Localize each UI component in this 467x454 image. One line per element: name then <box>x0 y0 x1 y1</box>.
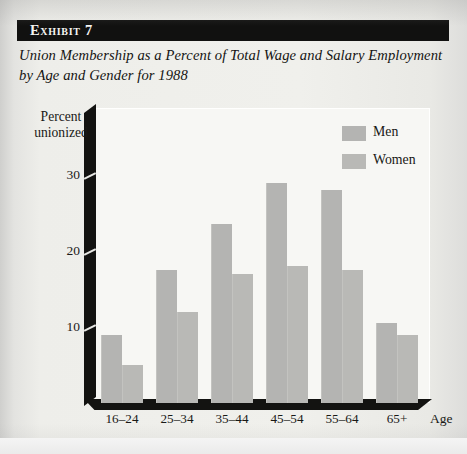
bar-men-35-44 <box>211 224 232 403</box>
x-tick-label-16-24: 16–24 <box>93 411 151 427</box>
bar-women-16-24 <box>122 365 143 403</box>
legend-item-women: Women <box>342 152 442 180</box>
bar-women-65+ <box>397 335 418 403</box>
bar-men-25-34 <box>156 270 177 403</box>
legend-label-men: Men <box>373 124 398 140</box>
x-tick-label-45-54: 45–54 <box>258 411 316 427</box>
bar-women-45-54 <box>287 266 308 403</box>
legend-swatch-men <box>342 126 366 141</box>
scanned-page: Exhibit 7 Union Membership as a Percent … <box>0 0 467 454</box>
x-tick-label-65+: 65+ <box>368 411 426 427</box>
y-axis-label-line1: Percent <box>30 109 92 125</box>
y-tick-label-20: 20 <box>48 243 80 259</box>
x-tick-label-25-34: 25–34 <box>148 411 206 427</box>
legend-item-men: Men <box>342 124 442 152</box>
bar-men-45-54 <box>266 183 287 403</box>
bar-men-65+ <box>376 323 397 403</box>
bar-men-55-64 <box>321 190 342 403</box>
y-tick-label-10: 10 <box>48 319 80 335</box>
y-tick-label-30: 30 <box>48 167 80 183</box>
y-axis-label-line2: unionized <box>30 125 92 141</box>
legend: Men Women <box>342 124 442 180</box>
legend-swatch-women <box>342 154 366 169</box>
bar-men-16-24 <box>101 335 122 403</box>
legend-label-women: Women <box>373 152 416 168</box>
x-tick-label-35-44: 35–44 <box>203 411 261 427</box>
bar-women-35-44 <box>232 274 253 403</box>
bar-women-55-64 <box>342 270 363 403</box>
x-axis-label: Age <box>430 411 453 427</box>
bar-chart: Percent unionized 10 20 30 16–2425–3435–… <box>0 0 467 454</box>
y-axis-wall <box>84 104 96 406</box>
x-tick-label-55-64: 55–64 <box>313 411 371 427</box>
y-axis-label: Percent unionized <box>30 109 92 140</box>
bar-women-25-34 <box>177 312 198 403</box>
